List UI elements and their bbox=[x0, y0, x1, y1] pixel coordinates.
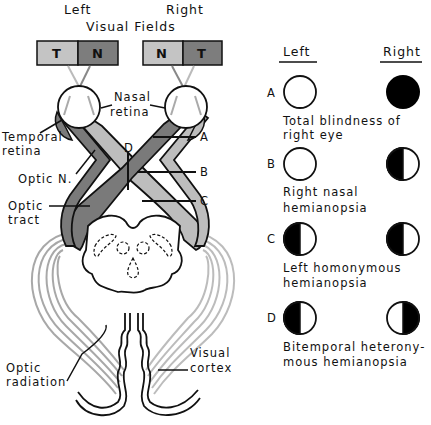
svg-text:mous hemianopsia: mous hemianopsia bbox=[283, 355, 408, 369]
header-left-label: Left bbox=[64, 2, 92, 17]
legend-row-d: D Bitemporal heterony- mous hemianopsia bbox=[267, 301, 425, 369]
svg-text:Total blindness of: Total blindness of bbox=[282, 114, 401, 128]
header-right-label: Right bbox=[166, 2, 204, 17]
svg-text:B: B bbox=[267, 157, 276, 171]
svg-text:hemianopsia: hemianopsia bbox=[283, 201, 368, 215]
label-temporal-retina-2: retina bbox=[2, 144, 42, 158]
label-nasal-retina-1: Nasal bbox=[114, 90, 151, 104]
svg-text:hemianopsia: hemianopsia bbox=[283, 276, 368, 290]
svg-text:A: A bbox=[267, 86, 276, 100]
svg-text:N: N bbox=[92, 46, 103, 61]
label-visual-cortex-1: Visual bbox=[190, 346, 230, 360]
lesion-a-label: A bbox=[200, 130, 209, 144]
right-visual-field-box: N T bbox=[143, 41, 222, 65]
svg-text:N: N bbox=[156, 46, 167, 61]
brainstem-section bbox=[83, 216, 182, 293]
visual-pathway-diagram: Left Right Visual Fields T N N T bbox=[0, 0, 431, 425]
left-visual-field-box: T N bbox=[37, 41, 118, 65]
legend-row-b: B Right nasal hemianopsia bbox=[267, 147, 419, 215]
label-optic-tract-2: tract bbox=[8, 213, 40, 227]
label-optic-nerve: Optic N. bbox=[18, 172, 72, 186]
svg-text:Right nasal: Right nasal bbox=[283, 185, 359, 199]
legend-right-header: Right bbox=[383, 44, 421, 59]
label-nasal-retina-2: retina bbox=[110, 105, 150, 119]
field-left-clear bbox=[284, 148, 316, 180]
visual-cortex bbox=[76, 313, 200, 415]
legend: Left Right A Total blindness of right ey… bbox=[267, 44, 425, 369]
svg-text:Bitemporal heterony-: Bitemporal heterony- bbox=[283, 340, 425, 354]
label-visual-cortex-2: cortex bbox=[190, 361, 232, 375]
svg-text:T: T bbox=[197, 46, 206, 61]
field-right-left-half-icon bbox=[386, 147, 403, 181]
label-optic-radiation-2: radiation bbox=[6, 375, 66, 389]
svg-text:C: C bbox=[267, 232, 276, 246]
label-optic-tract-1: Optic bbox=[8, 199, 43, 213]
legend-row-a: A Total blindness of right eye bbox=[267, 75, 420, 142]
lesion-d-label: D bbox=[124, 141, 134, 155]
field-right-full bbox=[386, 75, 420, 109]
svg-text:D: D bbox=[267, 311, 277, 325]
lesion-c-label: C bbox=[200, 194, 209, 208]
svg-text:Left homonymous: Left homonymous bbox=[283, 261, 401, 275]
svg-text:right eye: right eye bbox=[283, 128, 344, 142]
header-title: Visual Fields bbox=[86, 19, 176, 34]
field-left-clear bbox=[284, 76, 316, 108]
label-temporal-retina-1: Temporal bbox=[1, 130, 63, 144]
svg-text:T: T bbox=[52, 46, 61, 61]
legend-left-header: Left bbox=[283, 44, 311, 59]
lesion-b-label: B bbox=[200, 165, 209, 179]
legend-row-c: C Left homonymous hemianopsia bbox=[267, 222, 419, 290]
label-optic-radiation-1: Optic bbox=[6, 361, 41, 375]
